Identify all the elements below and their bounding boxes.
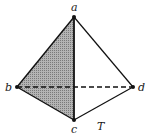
label-d: d <box>138 81 145 94</box>
vertex-c <box>72 118 76 122</box>
shaded-face-abc <box>17 17 74 120</box>
vertex-b <box>15 85 19 89</box>
tetrahedron-diagram: a b c d T <box>0 0 151 137</box>
vertex-a <box>72 15 76 19</box>
edge-ad <box>74 17 133 87</box>
vertex-d <box>131 85 135 89</box>
label-a: a <box>71 1 78 14</box>
label-b: b <box>5 81 12 94</box>
edge-cd <box>74 87 133 120</box>
label-c: c <box>71 123 77 136</box>
figure-label-T: T <box>97 120 106 133</box>
